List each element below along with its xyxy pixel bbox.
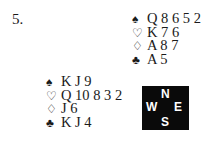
west-clubs-cards: K J 4 — [61, 114, 92, 130]
spade-icon: ♠ — [132, 13, 147, 27]
compass-south: S — [161, 116, 169, 128]
west-hand: ♠K J 9 ♡Q 10 8 3 2 ♢J 6 ♣K J 4 — [46, 75, 122, 129]
club-icon: ♣ — [132, 54, 147, 68]
spade-icon: ♠ — [46, 76, 61, 90]
west-clubs: ♣K J 4 — [46, 116, 122, 130]
heart-icon: ♡ — [46, 90, 61, 104]
north-hand: ♠Q 8 6 5 2 ♡K 7 6 ♢A 8 7 ♣A 5 — [132, 12, 201, 66]
heart-icon: ♡ — [132, 27, 147, 41]
compass-north: N — [161, 88, 170, 100]
club-icon: ♣ — [46, 117, 61, 131]
compass-east: E — [174, 101, 182, 113]
compass-box: N W E S — [142, 86, 189, 130]
north-clubs-cards: A 5 — [147, 51, 168, 67]
north-clubs: ♣A 5 — [132, 53, 201, 67]
problem-number: 5. — [12, 11, 23, 28]
diamond-icon: ♢ — [132, 40, 147, 54]
west-hearts: ♡Q 10 8 3 2 — [46, 89, 122, 103]
compass-west: W — [146, 101, 157, 113]
diamond-icon: ♢ — [46, 103, 61, 117]
